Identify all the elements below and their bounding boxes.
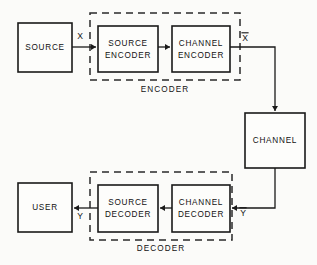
- block-label-source-encoder-line1: SOURCE: [108, 39, 148, 48]
- block-label-source-decoder-line1: SOURCE: [108, 198, 148, 207]
- group-label-decoder: DECODER: [137, 244, 186, 253]
- block-label-channel-decoder-line1: CHANNEL: [179, 198, 223, 207]
- signal-y-bar: Y: [239, 208, 246, 218]
- arrowhead-channel-encoder-to-channel: [272, 106, 278, 111]
- block-outline-channel-decoder: [172, 185, 230, 232]
- arrowhead-source-encoder-to-channel-encoder: [165, 44, 170, 50]
- block-label-channel-encoder-line1: CHANNEL: [179, 39, 223, 48]
- block-label-source-line1: SOURCE: [25, 43, 65, 52]
- signal-y: Y: [77, 211, 83, 221]
- block-channel-decoder: CHANNELDECODER: [172, 185, 230, 232]
- block-user: USER: [18, 183, 72, 232]
- block-outline-channel-encoder: [172, 26, 230, 72]
- block-outline-source-encoder: [98, 26, 158, 72]
- block-label-channel-decoder-line2: DECODER: [178, 210, 224, 219]
- arrowhead-channel-decoder-to-source-decoder: [160, 205, 165, 211]
- block-source-decoder: SOURCEDECODER: [98, 185, 158, 232]
- block-diagram-canvas: ENCODERDECODER SOURCESOURCEENCODERCHANNE…: [0, 0, 317, 265]
- block-label-source-encoder-line2: ENCODER: [105, 51, 151, 60]
- signal-label-y: Y: [77, 211, 83, 221]
- block-source: SOURCE: [18, 23, 72, 72]
- group-label-encoder: ENCODER: [141, 85, 190, 94]
- signal-label-x: X: [77, 31, 83, 41]
- block-channel: CHANNEL: [245, 113, 305, 168]
- block-label-channel-encoder-line2: ENCODER: [178, 51, 224, 60]
- block-source-encoder: SOURCEENCODER: [98, 26, 158, 72]
- arrowhead-source-to-source-encoder: [91, 44, 96, 50]
- wire-channel-encoder-to-channel: [230, 47, 275, 111]
- block-label-channel-line1: CHANNEL: [253, 136, 297, 145]
- block-outline-source-decoder: [98, 185, 158, 232]
- signal-x: X: [77, 31, 83, 41]
- signal-x-bar: X: [241, 33, 248, 43]
- blocks-layer: SOURCESOURCEENCODERCHANNELENCODERCHANNEL…: [18, 23, 305, 232]
- arrowhead-source-decoder-to-user: [74, 205, 79, 211]
- communication-system-diagram: ENCODERDECODER SOURCESOURCEENCODERCHANNE…: [0, 0, 317, 265]
- signal-label-y-bar: Y: [240, 208, 246, 218]
- signal-label-x-bar: X: [242, 33, 248, 43]
- block-label-source-decoder-line2: DECODER: [105, 210, 151, 219]
- block-label-user-line1: USER: [32, 203, 58, 212]
- wire-channel-to-channel-decoder: [232, 168, 275, 208]
- block-channel-encoder: CHANNELENCODER: [172, 26, 230, 72]
